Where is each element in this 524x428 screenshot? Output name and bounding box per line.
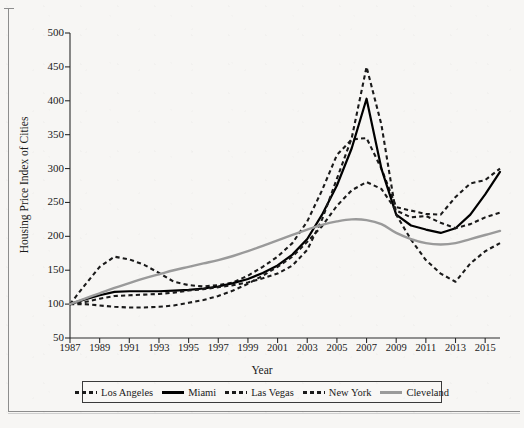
legend-item-cleveland[interactable]: Cleveland (380, 387, 449, 398)
legend-label: Cleveland (406, 387, 449, 398)
legend-swatch-icon (162, 388, 184, 397)
x-tick-label: 2015 (465, 343, 505, 354)
legend-item-los-angeles[interactable]: Los Angeles (75, 387, 153, 398)
legend-item-miami[interactable]: Miami (162, 387, 216, 398)
x-axis-title: Year (0, 364, 524, 376)
legend-swatch-icon (225, 388, 247, 397)
legend-label: Las Vegas (251, 387, 294, 398)
line-chart-figure: Housing Price Index of Cities 5010015020… (0, 0, 524, 428)
legend-label: New York (329, 387, 372, 398)
legend-item-new-york[interactable]: New York (303, 387, 372, 398)
chart-canvas (70, 33, 500, 338)
legend-swatch-icon (303, 388, 325, 397)
legend-label: Los Angeles (101, 387, 153, 398)
legend-swatch-icon (380, 388, 402, 397)
series-line-miami (70, 99, 500, 304)
plot-area (70, 33, 500, 338)
legend-label: Miami (188, 387, 216, 398)
figure-page: Housing Price Index of Cities 5010015020… (0, 0, 524, 428)
data-series (70, 67, 500, 308)
axis-ticks (65, 33, 485, 343)
legend-swatch-icon (75, 388, 97, 397)
legend-item-las-vegas[interactable]: Las Vegas (225, 387, 294, 398)
chart-legend: Los AngelesMiamiLas VegasNew YorkClevela… (82, 381, 442, 403)
series-line-las-vegas (70, 67, 500, 304)
